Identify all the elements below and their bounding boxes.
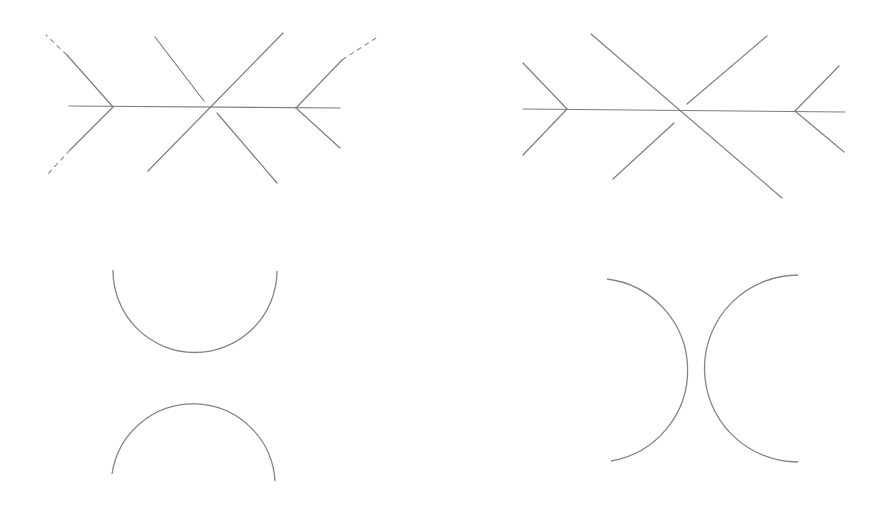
- diagonal-line: [155, 37, 204, 101]
- arc-curve: [113, 270, 277, 353]
- dashed-extension-line: [342, 38, 376, 60]
- diagonal-line: [523, 63, 567, 109]
- diagonal-line: [70, 107, 113, 150]
- diagonal-line: [687, 36, 767, 104]
- figure-bottom-right-arcs: [607, 275, 798, 462]
- dashed-extension-line: [46, 35, 67, 55]
- diagonal-line: [613, 123, 674, 179]
- diagonal-line: [217, 113, 277, 183]
- main-horizontal-line: [69, 106, 340, 108]
- dashed-extension-line: [46, 150, 70, 176]
- figure-top-left: [46, 33, 376, 183]
- diagonal-line: [296, 60, 342, 108]
- diagonal-line: [296, 108, 340, 148]
- diagonal-line: [795, 66, 839, 111]
- diagonal-line: [523, 109, 567, 155]
- figure-bottom-left-arcs: [112, 270, 277, 481]
- figure-top-right: [523, 34, 845, 198]
- arc-curve: [705, 275, 799, 462]
- diagonal-line: [67, 55, 113, 107]
- diagonal-line: [795, 111, 844, 152]
- arc-curve: [607, 279, 688, 461]
- arc-curve: [112, 404, 275, 481]
- illusion-diagram: [0, 0, 887, 516]
